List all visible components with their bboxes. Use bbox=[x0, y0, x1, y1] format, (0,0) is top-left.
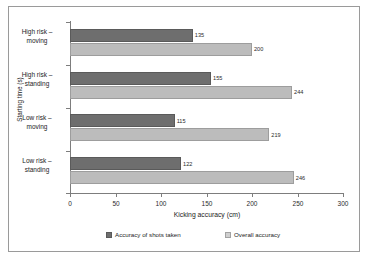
y-axis-label-1: High risk – standing bbox=[8, 71, 66, 88]
bar-value-label: 115 bbox=[177, 117, 186, 125]
chart-figure: Starting time (s) High risk – moving Hig… bbox=[0, 0, 369, 263]
bar-value-label: 246 bbox=[296, 174, 305, 182]
legend-item-0[interactable]: Accuracy of shots taken bbox=[106, 231, 181, 239]
bar-overall-accuracy-3 bbox=[70, 171, 294, 184]
bar-value-label: 135 bbox=[195, 31, 204, 39]
bar-overall-accuracy-1 bbox=[70, 86, 292, 99]
plot-area: 135200155244115219122246 bbox=[70, 22, 343, 193]
x-tick-label-0: 0 bbox=[68, 199, 72, 208]
x-tick-mark bbox=[252, 193, 253, 197]
bar-overall-accuracy-2 bbox=[70, 128, 269, 141]
bar-accuracy-of-shots-taken-3 bbox=[70, 157, 181, 170]
x-tick-mark bbox=[116, 193, 117, 197]
bar-value-label: 244 bbox=[294, 88, 303, 96]
x-tick-label-2: 100 bbox=[156, 199, 167, 208]
legend-item-1[interactable]: Overall accuracy bbox=[225, 231, 280, 239]
bar-accuracy-of-shots-taken-0 bbox=[70, 29, 193, 42]
x-tick-mark bbox=[70, 193, 71, 197]
chart-legend: Accuracy of shots taken Overall accuracy bbox=[8, 231, 360, 245]
y-axis-label-2: Low risk – moving bbox=[8, 114, 66, 131]
bar-value-label: 155 bbox=[213, 74, 222, 82]
x-tick-label-3: 150 bbox=[202, 199, 213, 208]
legend-swatch-icon bbox=[106, 232, 112, 238]
x-axis-title: Kicking accuracy (cm) bbox=[70, 211, 344, 218]
y-axis-label-3: Low risk – standing bbox=[8, 157, 66, 174]
y-axis-category-labels: High risk – moving High risk – standing … bbox=[4, 0, 66, 263]
x-tick-mark bbox=[207, 193, 208, 197]
x-tick-label-1: 50 bbox=[112, 199, 119, 208]
x-tick-label-6: 300 bbox=[338, 199, 349, 208]
bar-overall-accuracy-0 bbox=[70, 43, 252, 56]
x-tick-mark bbox=[343, 193, 344, 197]
legend-label-0: Accuracy of shots taken bbox=[115, 231, 181, 239]
bar-accuracy-of-shots-taken-2 bbox=[70, 114, 175, 127]
x-tick-label-5: 250 bbox=[293, 199, 304, 208]
legend-swatch-icon bbox=[225, 232, 231, 238]
bar-value-label: 219 bbox=[271, 131, 280, 139]
x-tick-label-4: 200 bbox=[247, 199, 258, 208]
legend-label-1: Overall accuracy bbox=[234, 231, 280, 239]
bar-value-label: 200 bbox=[254, 45, 263, 53]
y-axis-label-0: High risk – moving bbox=[8, 28, 66, 45]
x-tick-mark bbox=[298, 193, 299, 197]
bar-value-label: 122 bbox=[183, 160, 192, 168]
x-tick-mark bbox=[161, 193, 162, 197]
bar-accuracy-of-shots-taken-1 bbox=[70, 72, 211, 85]
